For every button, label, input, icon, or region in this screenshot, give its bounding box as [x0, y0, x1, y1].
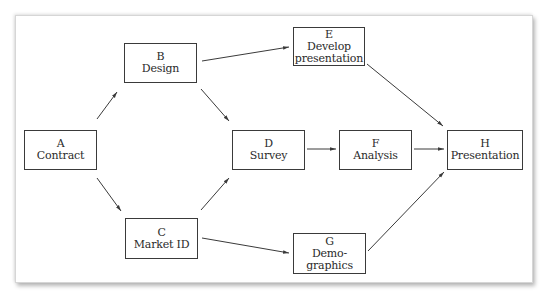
- diagram-canvas: A Contract B Design C Market ID D Survey…: [0, 0, 552, 298]
- node-g-demographics: G Demo- graphics: [293, 233, 366, 274]
- node-d-survey: D Survey: [232, 130, 305, 170]
- node-b-design: B Design: [124, 43, 197, 83]
- node-label-line-2: graphics: [306, 260, 353, 272]
- node-e-develop-presentation: E Develop presentation: [293, 27, 365, 66]
- node-label: Market ID: [134, 239, 190, 251]
- node-label-line-1: Demo-: [312, 248, 347, 260]
- node-h-presentation: H Presentation: [447, 130, 523, 170]
- node-label: Contract: [37, 150, 84, 162]
- node-letter: E: [325, 29, 333, 41]
- node-label: Design: [142, 63, 179, 75]
- node-label: Presentation: [451, 150, 520, 162]
- node-a-contract: A Contract: [24, 130, 97, 170]
- node-letter: G: [325, 236, 334, 248]
- node-letter: C: [157, 227, 165, 239]
- node-label: Survey: [250, 150, 288, 162]
- node-label-line-1: Develop: [307, 41, 351, 53]
- node-label: Analysis: [353, 150, 398, 162]
- node-label-line-2: presentation: [295, 53, 363, 65]
- node-c-market-id: C Market ID: [125, 218, 198, 259]
- node-f-analysis: F Analysis: [339, 130, 412, 170]
